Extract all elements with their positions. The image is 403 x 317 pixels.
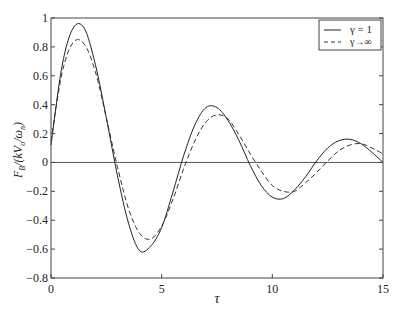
y-tick-label: −0.6 [26, 242, 48, 256]
y-tick-label: −0.4 [26, 213, 48, 227]
x-axis-label: τ [214, 291, 220, 306]
y-tick-label: 0.2 [33, 127, 48, 141]
series-gamma-inf-line [51, 40, 383, 240]
plot-area [51, 18, 383, 278]
y-axis-ticks: −0.8−0.6−0.4−0.200.20.40.60.81 [26, 11, 383, 285]
y-axis-label: FB/(kVo/ωn) [11, 122, 27, 179]
axes-frame [51, 18, 383, 278]
legend-entry-gamma-1: γ = 1 [349, 23, 372, 35]
legend: γ = 1 γ→∞ [319, 20, 381, 50]
x-tick-label: 0 [48, 282, 54, 296]
y-tick-label: −0.2 [26, 184, 48, 198]
legend-entry-gamma-inf: γ→∞ [349, 36, 372, 47]
series-gamma-1-line [51, 24, 383, 253]
y-tick-label: 0.4 [33, 98, 48, 112]
x-tick-label: 5 [159, 282, 165, 296]
line-chart: −0.8−0.6−0.4−0.200.20.40.60.81 051015 τ … [0, 0, 403, 317]
x-tick-label: 15 [377, 282, 389, 296]
y-tick-label: 0 [42, 155, 48, 169]
y-tick-label: 0.8 [33, 40, 48, 54]
x-tick-label: 10 [266, 282, 278, 296]
y-tick-label: −0.8 [26, 271, 48, 285]
y-tick-label: 0.6 [33, 69, 48, 83]
y-tick-label: 1 [42, 11, 48, 25]
